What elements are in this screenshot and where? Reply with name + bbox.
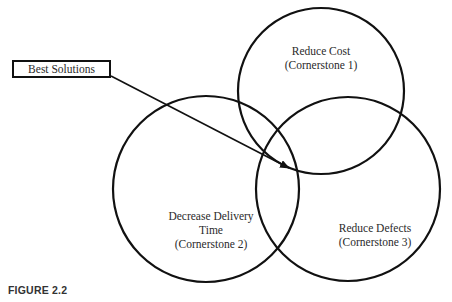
best-solutions-callout: Best Solutions (12, 60, 111, 78)
callout-label: Best Solutions (28, 63, 95, 75)
circle-reduce-cost (238, 8, 404, 174)
label-reduce-defects-line2: (Cornerstone 3) (315, 235, 435, 249)
label-reduce-cost-line1: Reduce Cost (261, 44, 381, 58)
label-reduce-defects-line1: Reduce Defects (315, 221, 435, 235)
circle-reduce-defects (256, 97, 440, 281)
label-reduce-cost: Reduce Cost (Cornerstone 1) (261, 44, 381, 72)
callout-arrow (111, 76, 289, 168)
label-delivery-line1: Decrease Delivery (146, 209, 276, 223)
label-delivery-line2: Time (146, 223, 276, 237)
label-reduce-defects: Reduce Defects (Cornerstone 3) (315, 221, 435, 249)
label-decrease-delivery-time: Decrease Delivery Time (Cornerstone 2) (146, 209, 276, 251)
label-delivery-line3: (Cornerstone 2) (146, 237, 276, 251)
venn-diagram (0, 0, 452, 302)
label-reduce-cost-line2: (Cornerstone 1) (261, 58, 381, 72)
figure-caption: FIGURE 2.2 (8, 284, 67, 296)
circle-decrease-delivery-time (113, 96, 299, 282)
